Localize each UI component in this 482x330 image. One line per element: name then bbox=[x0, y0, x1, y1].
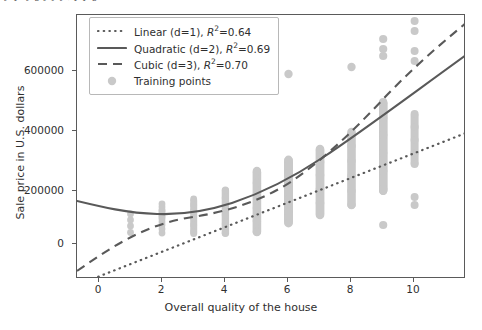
ytick-mark-0 bbox=[72, 243, 76, 244]
legend-label-training-points: Training points bbox=[134, 76, 211, 87]
xtick-mark-6 bbox=[287, 278, 288, 282]
xtick-mark-2 bbox=[161, 278, 162, 282]
curve-linear bbox=[77, 133, 465, 278]
ytick-label-400000: 400000 bbox=[24, 124, 64, 136]
xtick-label-10: 10 bbox=[406, 283, 419, 295]
xtick-mark-8 bbox=[350, 278, 351, 282]
legend-key-solid-line bbox=[97, 40, 127, 56]
scatter-high-q9-a bbox=[379, 35, 387, 43]
scatter-column-q4 bbox=[222, 186, 229, 237]
scatter-high-q10-b bbox=[411, 27, 419, 35]
matplotlib-figure: 600000 400000 200000 0 0 2 4 6 8 10 Over… bbox=[0, 0, 482, 330]
scatter-column-q10 bbox=[411, 17, 419, 209]
legend-label-linear-val: =0.64 bbox=[219, 26, 251, 38]
scatter-column-q5 bbox=[253, 167, 262, 236]
scatter-high-q9-b bbox=[379, 45, 387, 53]
legend-item-training-points: Training points bbox=[97, 73, 270, 90]
xtick-label-4: 4 bbox=[221, 283, 228, 295]
scatter-column-q1 bbox=[127, 211, 134, 236]
legend-label-linear: Linear (d=1), R2=0.64 bbox=[134, 25, 251, 37]
legend-key-dashed-line bbox=[97, 56, 127, 72]
scatter-outlier-q6 bbox=[284, 70, 292, 78]
xtick-label-2: 2 bbox=[158, 283, 165, 295]
xtick-label-6: 6 bbox=[284, 283, 291, 295]
scatter-low-q9 bbox=[379, 221, 387, 229]
scatter-high-q9-c bbox=[379, 52, 387, 60]
scatter-column-q9 bbox=[379, 35, 387, 229]
legend-key-dotted-line bbox=[97, 23, 127, 39]
legend-label-cubic-r: R bbox=[204, 59, 211, 71]
legend-item-linear: Linear (d=1), R2=0.64 bbox=[97, 23, 270, 40]
legend-item-cubic: Cubic (d=3), R2=0.70 bbox=[97, 56, 270, 73]
legend-label-quadratic-val: =0.69 bbox=[238, 42, 270, 54]
scatter-high-q10-c bbox=[411, 47, 419, 55]
xtick-mark-0 bbox=[98, 278, 99, 282]
scatter-low-q10-b bbox=[411, 201, 419, 209]
scatter-outlier-q8 bbox=[347, 63, 355, 71]
legend-label-cubic-val: =0.70 bbox=[216, 59, 248, 71]
legend-item-quadratic: Quadratic (d=2), R2=0.69 bbox=[97, 40, 270, 57]
xtick-mark-4 bbox=[224, 278, 225, 282]
legend-label-quadratic: Quadratic (d=2), R2=0.69 bbox=[134, 42, 270, 54]
ytick-mark-600000 bbox=[72, 70, 76, 71]
legend-label-cubic: Cubic (d=3), R2=0.70 bbox=[134, 58, 248, 70]
ytick-label-0: 0 bbox=[57, 237, 64, 249]
legend-label-linear-text: Linear (d=1), bbox=[134, 26, 207, 38]
ytick-label-200000: 200000 bbox=[24, 184, 64, 196]
ytick-label-600000: 600000 bbox=[24, 64, 64, 76]
xtick-mark-10 bbox=[413, 278, 414, 282]
scatter-high-q10-a bbox=[411, 17, 419, 25]
scatter-low-q10-a bbox=[411, 193, 419, 201]
x-axis-title: Overall quality of the house bbox=[0, 301, 482, 314]
legend-label-cubic-text: Cubic (d=3), bbox=[134, 59, 204, 71]
y-axis-title: Sale price in U.S. dollars bbox=[14, 58, 27, 248]
ytick-mark-200000 bbox=[72, 190, 76, 191]
ytick-mark-400000 bbox=[72, 130, 76, 131]
legend-label-quadratic-text: Quadratic (d=2), bbox=[134, 42, 226, 54]
xtick-label-8: 8 bbox=[347, 283, 354, 295]
scatter-column-q2 bbox=[159, 201, 166, 237]
xtick-label-0: 0 bbox=[95, 283, 102, 295]
legend-key-point-marker bbox=[97, 73, 127, 89]
chart-screenshot: y. p. y g y y y , p p g bbox=[0, 0, 482, 330]
chart-legend: Linear (d=1), R2=0.64 Quadratic (d=2), R… bbox=[89, 17, 279, 95]
